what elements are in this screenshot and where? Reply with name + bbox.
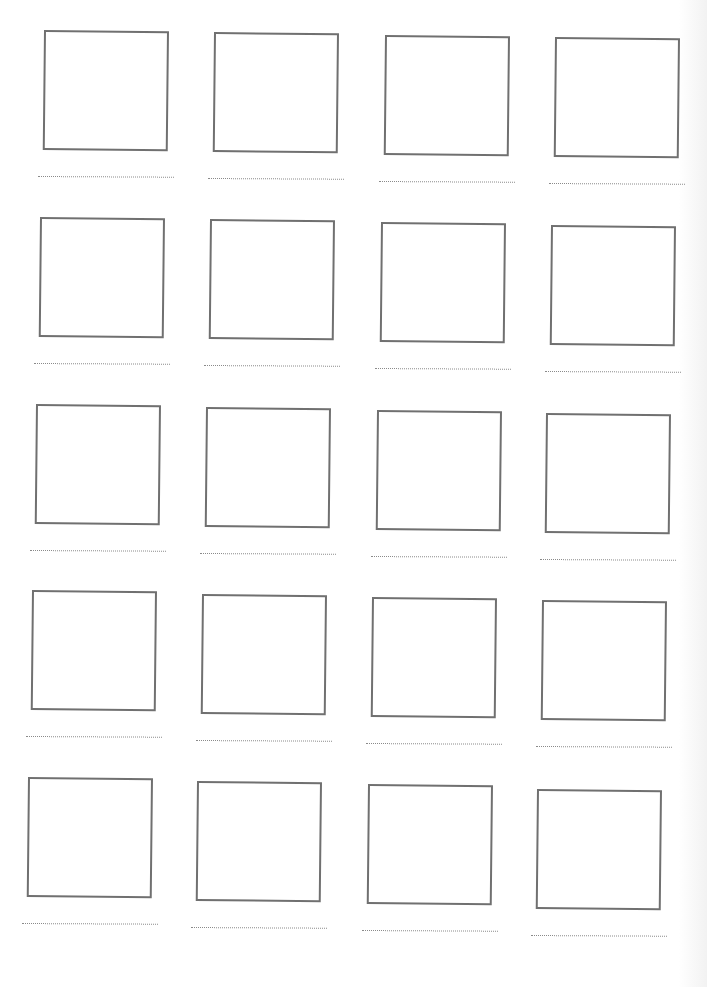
worksheet-cell-r4-c1 [26,590,166,750]
dotted-writing-line[interactable] [549,183,685,185]
worksheet-cell-r4-c4 [536,600,676,760]
worksheet-cell-r3-c3 [371,410,511,570]
drawing-box[interactable] [536,789,662,910]
worksheet-cell-r4-c2 [196,594,336,754]
dotted-writing-line[interactable] [208,178,344,180]
dotted-writing-line[interactable] [204,365,340,367]
drawing-box[interactable] [27,777,153,898]
worksheet-cell-r2-c1 [34,217,174,377]
worksheet-cell-r5-c1 [22,777,162,937]
dotted-writing-line[interactable] [30,550,166,552]
worksheet-cell-r1-c4 [549,37,689,197]
dotted-writing-line[interactable] [531,935,667,937]
dotted-writing-line[interactable] [200,553,336,555]
dotted-writing-line[interactable] [366,743,502,745]
dotted-writing-line[interactable] [371,556,507,558]
dotted-writing-line[interactable] [536,746,672,748]
worksheet-cell-r3-c2 [200,407,340,567]
dotted-writing-line[interactable] [545,371,681,373]
drawing-box[interactable] [35,404,161,525]
dotted-writing-line[interactable] [38,176,174,178]
drawing-box[interactable] [380,222,506,343]
worksheet-cell-r2-c2 [204,219,344,379]
drawing-box[interactable] [367,784,493,905]
dotted-writing-line[interactable] [196,740,332,742]
worksheet-cell-r5-c2 [191,781,331,941]
dotted-writing-line[interactable] [22,923,158,925]
drawing-box[interactable] [205,407,331,528]
worksheet-cell-r2-c4 [545,225,685,385]
drawing-box[interactable] [541,600,667,721]
drawing-box[interactable] [384,35,510,156]
dotted-writing-line[interactable] [191,927,327,929]
drawing-box[interactable] [209,219,335,340]
dotted-writing-line[interactable] [26,736,162,738]
worksheet-cell-r5-c3 [362,784,502,944]
drawing-box[interactable] [201,594,327,715]
drawing-box[interactable] [196,781,322,902]
worksheet-cell-r4-c3 [366,597,506,757]
drawing-box[interactable] [31,590,157,711]
dotted-writing-line[interactable] [540,559,676,561]
drawing-box[interactable] [545,413,671,534]
dotted-writing-line[interactable] [375,368,511,370]
worksheet-page [0,0,707,987]
drawing-box[interactable] [213,32,339,153]
worksheet-cell-r1-c3 [379,35,519,195]
worksheet-cell-r5-c4 [531,789,671,949]
drawing-box[interactable] [376,410,502,531]
worksheet-cell-r1-c1 [38,30,178,190]
drawing-box[interactable] [371,597,497,718]
worksheet-cell-r3-c4 [540,413,680,573]
drawing-box[interactable] [554,37,680,158]
drawing-box[interactable] [39,217,165,338]
drawing-box[interactable] [550,225,676,346]
dotted-writing-line[interactable] [362,930,498,932]
drawing-box[interactable] [43,30,169,151]
worksheet-cell-r2-c3 [375,222,515,382]
dotted-writing-line[interactable] [34,363,170,365]
worksheet-cell-r1-c2 [208,32,348,192]
dotted-writing-line[interactable] [379,181,515,183]
worksheet-cell-r3-c1 [30,404,170,564]
